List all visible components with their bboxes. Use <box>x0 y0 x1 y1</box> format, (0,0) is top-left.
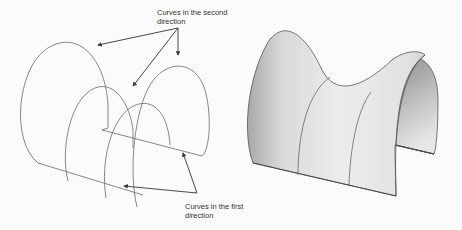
label-curves-second-direction: Curves in the second direction <box>157 8 227 26</box>
diagram-svg <box>0 0 462 230</box>
curve-second-direction-2 <box>65 86 133 181</box>
label-line: direction <box>157 17 227 26</box>
label-line: direction <box>185 211 243 220</box>
diagram-canvas: Curves in the second direction Curves in… <box>0 0 462 230</box>
wireframe-curves <box>20 42 209 207</box>
label-line: Curves in the second <box>157 8 227 17</box>
curve-second-direction-1 <box>20 42 108 163</box>
label-curves-first-direction: Curves in the first direction <box>185 202 243 220</box>
curve-first-direction-front <box>38 163 143 195</box>
shaded-surface <box>247 31 438 196</box>
arrows-first-direction <box>124 153 197 193</box>
label-line: Curves in the first <box>185 202 243 211</box>
curve-second-direction-3 <box>104 103 170 198</box>
curve-first-direction-back <box>102 130 202 156</box>
arrows-second-direction <box>98 28 178 86</box>
curve-second-direction-4 <box>133 66 209 207</box>
